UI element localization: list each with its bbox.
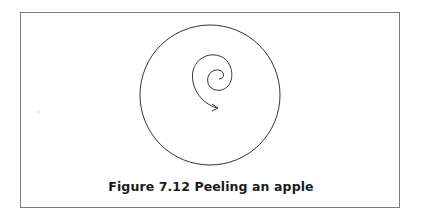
peel-spiral — [192, 55, 231, 108]
apple-outline — [140, 25, 280, 165]
figure-caption: Figure 7.12 Peeling an apple — [0, 179, 422, 194]
